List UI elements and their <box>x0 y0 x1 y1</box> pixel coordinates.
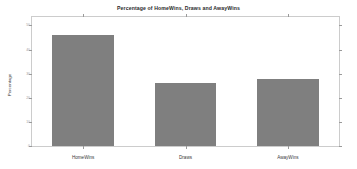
x-axis-label-awaywins: AwayWins <box>277 155 298 160</box>
y-axis-tick-label: 20 <box>26 96 30 100</box>
x-axis-label-homewins: HomeWins <box>72 155 94 160</box>
x-axis-tick-top <box>83 14 84 17</box>
y-axis-tick-label: 40 <box>26 48 30 52</box>
y-axis-tick-right <box>339 25 342 26</box>
x-axis-labels: HomeWinsDrawsAwayWins <box>31 147 340 167</box>
plot-inner: 01020304050 <box>32 17 339 146</box>
y-axis-tick-label: 50 <box>26 23 30 27</box>
y-axis-tick-right <box>339 122 342 123</box>
y-axis-tick-right <box>339 74 342 75</box>
bar <box>52 35 113 146</box>
y-axis-label: Percentage <box>7 55 12 115</box>
y-axis-tick-right <box>339 50 342 51</box>
x-axis-tick-top <box>288 14 289 17</box>
plot-area: 01020304050 <box>31 16 340 147</box>
chart-title: Percentage of HomeWins, Draws and AwayWi… <box>0 5 357 11</box>
bar <box>257 79 318 147</box>
bar <box>155 83 216 146</box>
x-axis-label-draws: Draws <box>179 155 192 160</box>
y-axis-tick-label: 0 <box>28 144 30 148</box>
x-axis-tick-top <box>186 14 187 17</box>
y-axis-tick-label: 30 <box>26 72 30 76</box>
y-axis-tick-right <box>339 98 342 99</box>
y-axis-tick-label: 10 <box>26 120 30 124</box>
chart-figure: Percentage of HomeWins, Draws and AwayWi… <box>0 0 357 169</box>
